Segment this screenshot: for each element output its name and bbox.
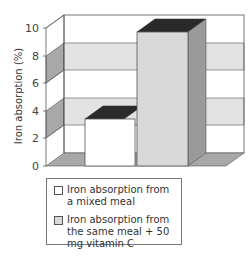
legend-swatch-gray (54, 216, 63, 225)
legend-label: Iron absorption from a mixed meal (67, 184, 177, 208)
svg-text:2: 2 (32, 132, 39, 145)
y-axis-label: Iron absorption (%) (13, 48, 24, 144)
legend-label: Iron absorption from the same meal + 50 … (67, 214, 177, 250)
legend-item-mixed-meal: Iron absorption from a mixed meal (54, 184, 177, 208)
legend-item-vitamin-c: Iron absorption from the same meal + 50 … (54, 214, 177, 250)
bar-chart: Iron absorption (%) 0 2 4 6 8 10 (0, 0, 252, 180)
svg-text:8: 8 (32, 50, 39, 63)
chart-legend: Iron absorption from a mixed meal Iron a… (46, 178, 182, 245)
svg-text:0: 0 (32, 160, 39, 173)
y-tick-labels: 0 2 4 6 8 10 (25, 22, 39, 173)
svg-text:10: 10 (25, 22, 39, 35)
svg-text:6: 6 (32, 77, 39, 90)
svg-text:4: 4 (32, 105, 39, 118)
bar-with-vitamin-c (137, 19, 206, 166)
legend-swatch-white (54, 186, 63, 195)
plot-area (43, 15, 244, 166)
